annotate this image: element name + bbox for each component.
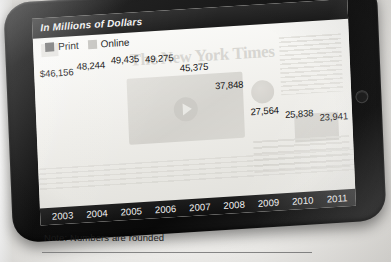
x-axis-tick: 2008 (222, 199, 247, 212)
bar-column[interactable]: 23,941 (317, 19, 349, 190)
x-axis-tick: 2010 (290, 194, 315, 207)
tablet-device: In Millions of Dollars The New York Time… (3, 0, 386, 243)
bar-value-label: 48,244 (76, 59, 105, 72)
bar-value-label: $46,156 (40, 67, 74, 80)
online-swatch-icon (87, 40, 96, 50)
chart-plot-area: The New York Times Print (33, 19, 355, 209)
bar-value-label: 37,848 (215, 79, 244, 92)
bar-column[interactable]: 37,848 (214, 26, 246, 197)
x-axis-tick: 2007 (187, 201, 212, 214)
bar-column[interactable]: 45,375 (180, 28, 212, 199)
x-axis-tick: 2006 (153, 203, 178, 216)
bar-value-label: 49,435 (111, 53, 140, 66)
bar-column[interactable]: 48,244 (77, 34, 109, 205)
bar-column[interactable]: $46,156 (43, 36, 75, 207)
x-axis-tick: 2003 (50, 209, 75, 222)
x-axis-tick: 2005 (119, 205, 144, 218)
bar-value-label: 27,564 (250, 105, 279, 118)
tablet-display[interactable]: In Millions of Dollars The New York Time… (32, 0, 356, 226)
x-axis-tick: 2011 (324, 192, 349, 205)
print-swatch-icon (45, 42, 54, 52)
screenshot-root: In Millions of Dollars The New York Time… (0, 0, 391, 262)
bar-column[interactable]: 25,838 (283, 21, 315, 192)
bar-value-label: 49,275 (145, 52, 174, 65)
bar-column[interactable]: 49,435 (111, 32, 143, 203)
bar-column[interactable]: 27,564 (249, 24, 281, 195)
x-axis-tick: 2009 (256, 196, 281, 209)
footer-divider (42, 252, 312, 253)
legend-item-print[interactable]: Print (45, 40, 79, 53)
legend-label-online: Online (100, 37, 129, 50)
bar-value-label: 25,838 (285, 107, 314, 120)
bar-value-label: 23,941 (319, 110, 348, 123)
legend-label-print: Print (58, 40, 79, 52)
footer-note: Note: Numbers are rounded (44, 232, 164, 243)
bar-column[interactable]: 49,275 (146, 30, 178, 201)
bar-value-label: 45,375 (180, 60, 209, 73)
x-axis-tick: 2004 (84, 207, 109, 220)
